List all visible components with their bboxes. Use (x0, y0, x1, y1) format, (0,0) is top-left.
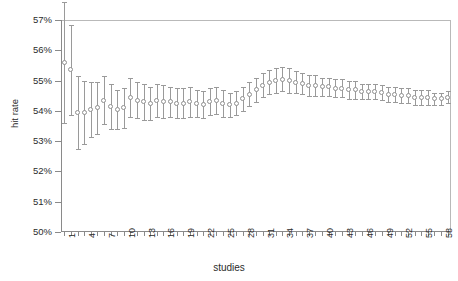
error-bar-cap-lower (208, 115, 213, 116)
x-tick (197, 232, 198, 236)
error-bar-cap-lower (267, 94, 272, 95)
error-bar-cap-upper (109, 84, 114, 85)
error-bar-cap-upper (241, 87, 246, 88)
error-bar-cap-lower (254, 102, 259, 103)
error-bar-cap-upper (89, 82, 94, 83)
error-bar-cap-lower (432, 105, 437, 106)
data-point-marker (406, 93, 411, 98)
x-tick (441, 232, 442, 236)
error-bar-cap-lower (188, 117, 193, 118)
error-bar-cap-upper (82, 81, 87, 82)
error-bar-cap-upper (69, 25, 74, 26)
error-bar-cap-upper (413, 90, 418, 91)
error-bar-cap-upper (135, 82, 140, 83)
x-tick (434, 232, 435, 236)
x-tick (144, 232, 145, 236)
x-tick-label: 10 (128, 228, 137, 238)
error-bar-cap-upper (366, 84, 371, 85)
data-point-marker (445, 95, 450, 100)
x-tick (243, 232, 244, 236)
data-point-marker (254, 87, 259, 92)
error-bar-cap-upper (181, 88, 186, 89)
error-bar-cap-lower (294, 93, 299, 94)
error-bar-cap-upper (353, 81, 358, 82)
data-point-marker (293, 80, 298, 85)
x-tick (282, 232, 283, 236)
y-axis-title: hit rate (9, 84, 20, 144)
error-bar-cap-lower (419, 105, 424, 106)
x-tick (342, 232, 343, 236)
data-point-marker (353, 87, 358, 92)
data-point-marker (366, 89, 371, 94)
error-bar-cap-upper (214, 87, 219, 88)
error-bar-cap-lower (175, 118, 180, 119)
data-point-marker (115, 107, 120, 112)
error-bar-cap-upper (122, 88, 127, 89)
x-tick-label: 31 (267, 228, 276, 238)
error-bar-cap-lower (313, 96, 318, 97)
error-bar-cap-lower (62, 123, 67, 124)
error-bar-cap-lower (340, 97, 345, 98)
error-bar-cap-upper (161, 85, 166, 86)
error-bar-cap-upper (247, 82, 252, 83)
data-point-marker (201, 102, 206, 107)
error-bar-cap-upper (300, 73, 305, 74)
x-tick (64, 232, 65, 236)
error-bar-cap-upper (102, 76, 107, 77)
data-point-marker (234, 101, 239, 106)
x-tick (104, 232, 105, 236)
data-point-marker (181, 101, 186, 106)
error-bar-cap-upper (208, 88, 213, 89)
error-bar-cap-upper (399, 88, 404, 89)
x-tick (163, 232, 164, 236)
x-tick (256, 232, 257, 236)
error-bar-cap-upper (195, 90, 200, 91)
data-point-marker (148, 101, 153, 106)
error-bar-cap-lower (195, 117, 200, 118)
error-bar-cap-lower (307, 96, 312, 97)
error-bar-cap-upper (327, 78, 332, 79)
error-bar-cap-lower (168, 117, 173, 118)
error-bar-cap-upper (267, 70, 272, 71)
error-bar-cap-lower (347, 99, 352, 100)
error-bar-cap-lower (142, 120, 147, 121)
data-point-marker (313, 83, 318, 88)
error-bar-cap-upper (254, 78, 259, 79)
x-tick (117, 232, 118, 236)
y-tick-label: 52% (0, 166, 52, 175)
error-bar-cap-lower (261, 97, 266, 98)
x-tick-label: 40 (326, 228, 335, 238)
plot-area-frame (61, 20, 451, 232)
error-bar-cap-upper (201, 91, 206, 92)
error-bar-cap-upper (320, 78, 325, 79)
data-point-marker (82, 110, 87, 115)
error-bar-cap-upper (261, 73, 266, 74)
data-point-marker (386, 92, 391, 97)
error-bar-cap-lower (399, 103, 404, 104)
error-bar-cap-lower (446, 103, 451, 104)
x-tick (97, 232, 98, 236)
error-bar-cap-lower (333, 97, 338, 98)
x-tick (137, 232, 138, 236)
error-bar-cap-upper (340, 79, 345, 80)
y-tick (55, 202, 61, 203)
x-tick (315, 232, 316, 236)
y-axis-line (61, 20, 62, 232)
y-tick (55, 20, 61, 21)
x-tick (84, 232, 85, 236)
error-bar-cap-lower (69, 115, 74, 116)
error-bar-cap-lower (228, 117, 233, 118)
x-tick (362, 232, 363, 236)
x-tick (177, 232, 178, 236)
error-bar-cap-upper (221, 90, 226, 91)
error-bar-cap-upper (380, 85, 385, 86)
error-bar-cap-lower (380, 100, 385, 101)
error-bar-cap-lower (247, 106, 252, 107)
error-bar-cap-upper (307, 75, 312, 76)
x-tick (296, 232, 297, 236)
x-tick-label: 13 (148, 228, 157, 238)
data-point-marker (287, 78, 292, 83)
data-point-marker (174, 101, 179, 106)
error-bar-cap-lower (76, 149, 81, 150)
error-bar-cap-upper (360, 84, 365, 85)
